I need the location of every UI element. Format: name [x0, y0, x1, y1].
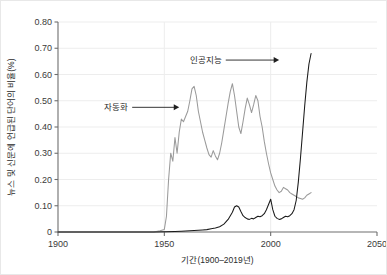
annotation-arrow-head [174, 104, 180, 110]
chart-plot-area: 00.100.200.300.400.500.600.700.801900195… [1, 1, 387, 275]
y-tick-label: 0.50 [34, 96, 52, 106]
annotation-arrow-head [274, 57, 280, 63]
y-tick-label: 0 [47, 227, 52, 237]
y-tick-label: 0.60 [34, 70, 52, 80]
x-tick-label: 1950 [154, 239, 174, 249]
y-tick-label: 0.80 [34, 17, 52, 27]
data-series-line [58, 54, 311, 233]
y-tick-label: 0.20 [34, 175, 52, 185]
x-tick-label: 2050 [367, 239, 387, 249]
annotation-label: 자동화 [104, 102, 128, 112]
x-tick-label: 1900 [48, 239, 68, 249]
y-tick-label: 0.30 [34, 148, 52, 158]
x-axis-title: 기간(1900–2019년) [181, 255, 253, 265]
y-axis-title: 뉴스 및 신문에 언급된 단어의 비율(%) [6, 58, 16, 195]
y-tick-label: 0.70 [34, 43, 52, 53]
annotation-label: 인공지능 [190, 55, 222, 65]
y-tick-label: 0.40 [34, 122, 52, 132]
x-tick-label: 2000 [261, 239, 281, 249]
y-tick-label: 0.10 [34, 201, 52, 211]
chart-figure: 00.100.200.300.400.500.600.700.801900195… [0, 0, 387, 275]
